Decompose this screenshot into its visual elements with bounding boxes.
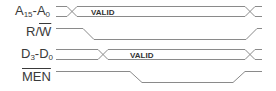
data-valid-label: VALID [130,51,154,60]
waveform-men [56,72,262,83]
address-valid-label: VALID [91,8,115,17]
waveform-data-bus [56,50,262,60]
timing-diagram: A15-A0 R/W D3-D0 MEN [0,0,276,91]
waveform-address-bus [56,7,262,17]
waveforms: VALID VALID [0,0,276,91]
waveform-rw [56,29,262,40]
